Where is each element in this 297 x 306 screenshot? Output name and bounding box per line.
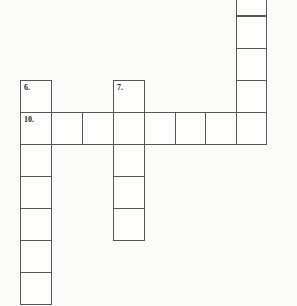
crossword-cell[interactable]: 6. [20,80,52,113]
crossword-cell[interactable] [205,112,237,145]
crossword-cell[interactable] [175,112,206,145]
crossword-cell[interactable] [20,208,52,241]
crossword-cell[interactable] [113,112,145,145]
crossword-cell[interactable] [20,144,52,177]
crossword-cell[interactable]: 7. [113,80,145,113]
clue-number: 10. [24,115,34,124]
crossword-cell[interactable] [144,112,176,145]
crossword-cell[interactable] [20,240,52,273]
clue-number: 6. [24,83,30,92]
crossword-cell[interactable] [236,112,267,145]
crossword-cell[interactable] [236,80,267,113]
crossword-cell[interactable] [113,176,145,209]
crossword-cell[interactable] [82,112,114,145]
crossword-cell[interactable] [236,16,267,49]
crossword-cell[interactable] [20,272,52,305]
crossword-cell[interactable] [20,176,52,209]
crossword-cell[interactable] [236,0,267,16]
crossword-cell[interactable] [236,48,267,81]
crossword-cell[interactable] [113,144,145,177]
crossword-cell[interactable] [51,112,83,145]
clue-number: 7. [117,83,123,92]
crossword-cell[interactable] [113,208,145,241]
crossword-cell[interactable]: 10. [20,112,52,145]
